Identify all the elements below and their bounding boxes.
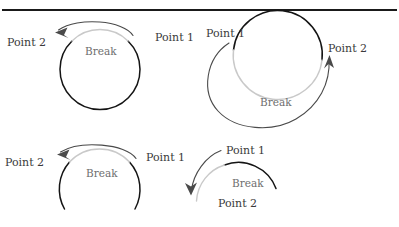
panel-bottom-left: Point 1 Point 2 Break bbox=[0, 140, 199, 227]
bottom-left-arc-left bbox=[59, 162, 69, 209]
bottom-left-arc-right bbox=[130, 162, 140, 209]
bottom-left-direction-arrowhead bbox=[57, 150, 71, 161]
top-right-point2-label: Point 2 bbox=[328, 43, 367, 54]
panel-top-right: Point 1 Point 2 Break bbox=[200, 14, 399, 129]
top-horizontal-rule bbox=[2, 9, 397, 11]
top-left-point1-label: Point 1 bbox=[155, 32, 194, 43]
top-left-point2-label: Point 2 bbox=[7, 37, 46, 48]
top-right-break-arc bbox=[233, 50, 322, 100]
top-left-direction-arrowhead bbox=[55, 28, 69, 39]
bottom-right-point1-label: Point 1 bbox=[226, 145, 265, 156]
top-left-break-label: Break bbox=[85, 46, 117, 57]
figure-canvas: Point 1 Point 2 Break Point 1 Point 2 Br… bbox=[0, 0, 399, 227]
bottom-right-break-arc bbox=[197, 165, 225, 201]
bottom-left-direction-arrow-shaft bbox=[61, 145, 137, 159]
bottom-left-point2-label: Point 2 bbox=[5, 157, 44, 168]
panel-bottom-right: Point 1 Point 2 Break bbox=[200, 140, 399, 227]
bottom-right-point2-label: Point 2 bbox=[218, 198, 257, 209]
panel-top-left: Point 1 Point 2 Break bbox=[0, 18, 199, 123]
top-right-point1-label: Point 1 bbox=[206, 28, 245, 39]
bottom-left-break-label: Break bbox=[86, 168, 118, 179]
top-left-break-arc bbox=[72, 30, 128, 41]
bottom-left-point1-label: Point 1 bbox=[146, 152, 185, 163]
bottom-left-break-arc bbox=[70, 149, 130, 162]
bottom-right-break-label: Break bbox=[232, 178, 264, 189]
top-right-main-arc bbox=[234, 10, 323, 60]
top-right-break-label: Break bbox=[260, 97, 292, 108]
top-left-direction-arrow-shaft bbox=[59, 22, 134, 36]
